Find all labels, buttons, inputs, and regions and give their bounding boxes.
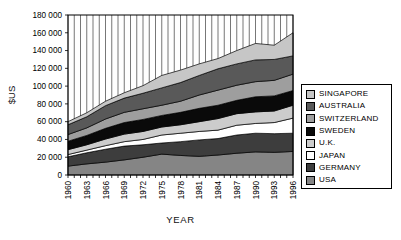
x-tick-label: 1990: [252, 181, 261, 200]
legend-label: GERMANY: [319, 164, 361, 172]
x-tick-label: 1996: [289, 181, 298, 200]
y-tick-label: 0: [57, 171, 62, 180]
legend-item-germany: GERMANY: [306, 162, 388, 174]
legend-swatch: [306, 163, 315, 172]
x-tick-label: 1966: [102, 181, 111, 200]
y-axis-title: $US: [6, 83, 20, 107]
x-tick-label: 1981: [195, 181, 204, 200]
legend-item-u-k-: U.K.: [306, 137, 388, 149]
legend-label: SWEDEN: [319, 127, 355, 135]
x-tick-label: 1960: [64, 181, 73, 200]
x-tick-label: 1993: [270, 181, 279, 200]
legend-label: AUSTRALIA: [319, 102, 365, 110]
y-tick-label: 120 000: [32, 64, 62, 73]
x-tick-label: 1969: [120, 181, 129, 200]
x-axis-title: YEAR: [68, 214, 293, 225]
y-tick-label: 140 000: [32, 46, 62, 55]
legend-label: SINGAPORE: [319, 90, 368, 98]
x-tick-label: 1963: [83, 181, 92, 200]
y-tick-label: 60 000: [37, 117, 62, 126]
y-tick-label: 40 000: [37, 135, 62, 144]
x-tick-label: 1987: [233, 181, 242, 200]
legend-item-usa: USA: [306, 174, 388, 186]
y-tick-labels: 020 00040 00060 00080 000100 000120 0001…: [32, 11, 62, 180]
x-tick-label: 1972: [139, 181, 148, 200]
legend-label: USA: [319, 176, 336, 184]
legend-swatch: [306, 139, 315, 148]
y-tick-label: 160 000: [32, 29, 62, 38]
legend-swatch: [306, 176, 315, 185]
legend-item-sweden: SWEDEN: [306, 125, 388, 137]
legend-swatch: [306, 127, 315, 136]
x-tick-labels: 1960196319661969197219751978198119841987…: [64, 181, 298, 200]
legend-label: JAPAN: [319, 152, 345, 160]
y-tick-label: 180 000: [32, 11, 62, 20]
x-tick-label: 1978: [177, 181, 186, 200]
legend-swatch: [306, 90, 315, 99]
x-tick-label: 1975: [158, 181, 167, 200]
legend-swatch: [306, 102, 315, 111]
y-tick-label: 20 000: [37, 153, 62, 162]
y-tick-label: 80 000: [37, 100, 62, 109]
legend-swatch: [306, 151, 315, 160]
legend-label: U.K.: [319, 139, 335, 147]
legend-item-japan: JAPAN: [306, 149, 388, 161]
x-tick-label: 1984: [214, 181, 223, 200]
legend-label: SWITZERLAND: [319, 115, 379, 123]
legend-item-switzerland: SWITZERLAND: [306, 113, 388, 125]
legend-item-singapore: SINGAPORE: [306, 88, 388, 100]
y-tick-label: 100 000: [32, 82, 62, 91]
legend: SINGAPOREAUSTRALIASWITZERLANDSWEDENU.K.J…: [301, 84, 392, 189]
legend-swatch: [306, 114, 315, 123]
legend-item-australia: AUSTRALIA: [306, 100, 388, 112]
stacked-area-chart-figure: 020 00040 00060 00080 000100 000120 0001…: [0, 0, 401, 240]
